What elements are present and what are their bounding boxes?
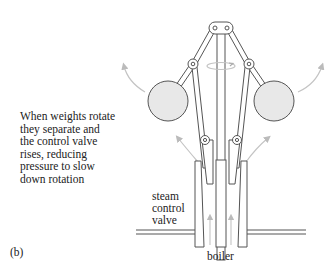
- caption-line: rises, reducing: [20, 148, 130, 161]
- top-hub: [209, 22, 233, 34]
- valve-label-line-2: control: [152, 202, 185, 214]
- valve-label-line-1: steam: [152, 190, 179, 202]
- boiler-label: boiler: [207, 250, 234, 262]
- caption-line: down rotation: [20, 173, 130, 186]
- figure-caption: When weights rotate they separate and th…: [20, 110, 130, 185]
- arrow-right-upper-icon: [298, 66, 322, 92]
- arrow-left-lower-icon: [178, 138, 198, 162]
- caption-line: When weights rotate: [20, 110, 130, 123]
- caption-line: pressure to slow: [20, 160, 130, 173]
- arrow-right-lower-icon: [246, 138, 268, 162]
- rotating-weight-left: [148, 81, 188, 121]
- valve-label-line-3: valve: [152, 214, 177, 226]
- rotating-weight-right: [254, 81, 294, 121]
- caption-line: they separate and: [20, 123, 130, 136]
- figure-label: (b): [10, 246, 24, 259]
- caption-line: the control valve: [20, 135, 130, 148]
- arrow-left-upper-icon: [124, 66, 145, 92]
